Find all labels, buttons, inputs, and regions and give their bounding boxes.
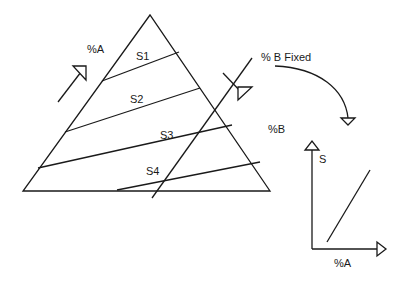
- b-fixed-arrow-icon: [223, 73, 252, 100]
- x-axis-arrow-icon: [377, 242, 386, 256]
- label-s3: S3: [160, 129, 173, 141]
- label-percent-a: %A: [87, 43, 105, 55]
- label-percent-b: %B: [268, 123, 285, 135]
- inset-x-label: %A: [334, 257, 352, 269]
- label-s2: S2: [130, 93, 143, 105]
- label-b-fixed: % B Fixed: [261, 51, 311, 63]
- y-axis-arrow-icon: [305, 141, 319, 150]
- inset-trend-line: [327, 170, 370, 242]
- label-s1: S1: [136, 50, 149, 62]
- percent-a-arrow-icon: [58, 66, 86, 102]
- inset-y-label: S: [319, 153, 326, 165]
- label-s4: S4: [146, 165, 159, 177]
- inset-plot: S %A: [305, 141, 386, 269]
- diagram-canvas: S1 S2 S3 S4 %A % B Fixed %B S %A: [0, 0, 404, 282]
- curved-arrow-icon: [275, 66, 355, 125]
